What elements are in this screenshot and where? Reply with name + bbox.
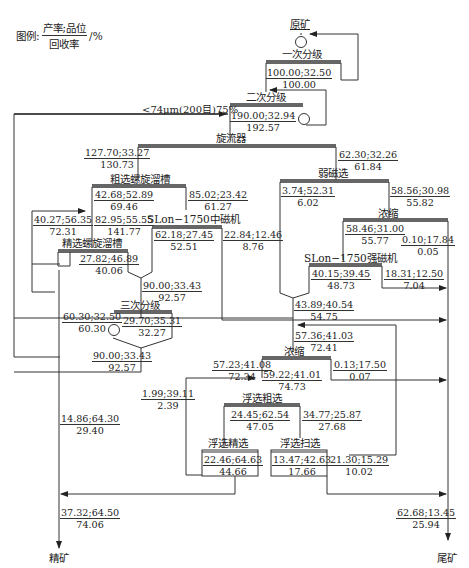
node-concentrate: 精矿 (49, 552, 69, 564)
stream-secondary: 190.00;32.94192.57 (230, 110, 296, 133)
node-thickener-1: 浓缩 (378, 207, 398, 219)
stream-final-conc: 37.32;64.5074.06 (60, 507, 120, 530)
stream-final-tail: 62.68;13.4525.94 (396, 507, 456, 530)
stream-merged-middling: 90.00;33.4392.57 (142, 280, 202, 303)
stream-strong-mag-tail: 18.31;12.507.04 (384, 268, 444, 291)
stream-mag-conc: 43.89;40.5454.75 (294, 299, 354, 322)
node-float-scav: 浮选扫选 (280, 437, 320, 449)
legend-numerator: 产率;品位 (42, 20, 88, 36)
legend-fraction: 产率;品位 回收率 (42, 20, 88, 51)
primary-mill-icon (296, 37, 307, 48)
node-slon-medium: SLon−1750中磁机 (147, 213, 240, 225)
node-raw-ore: 原矿 (290, 18, 310, 30)
stream-tertiary-return: 90.00;33.4392.57 (92, 350, 152, 373)
node-float-clean: 浮选精选 (208, 437, 248, 449)
stream-weak-mag-tail: 58.56;30.9855.82 (390, 185, 450, 208)
node-cyclone: 旋流器 (216, 132, 246, 144)
stream-tertiary-overflow: 29.70;35.3132.27 (122, 315, 182, 338)
grind-note: <74μm(200目)75% (142, 104, 238, 115)
stream-medium-mag-conc: 62.18;27.4552.51 (154, 229, 214, 252)
stream-clean-feed: 82.95;55.55141.77 (94, 214, 154, 237)
node-clean-spiral: 精选螺旋溜槽 (62, 237, 122, 249)
node-tailings: 尾矿 (437, 552, 457, 564)
stream-cyclone-underflow: 127.70;33.27130.73 (84, 147, 150, 170)
stream-float-scav-tail: 21.30;15.2910.02 (329, 454, 389, 477)
node-rough-spiral: 粗选螺旋溜槽 (110, 173, 170, 185)
node-secondary-classify: 二次分级 (246, 91, 286, 103)
stream-medium-mag-tail: 22.84;12.468.76 (223, 229, 283, 252)
legend-denominator: 回收率 (49, 36, 79, 51)
stream-cyclone-overflow: 62.30;32.2661.84 (338, 149, 398, 172)
stream-float-clean-conc: 22.46;64.6344.66 (203, 454, 263, 477)
stream-thickener1-overflow: 0.10;17.840.05 (401, 234, 455, 257)
stream-float-feed: 59.22;41.0174.73 (262, 369, 322, 392)
legend: 图例: 产率;品位 回收率 /% (16, 20, 103, 51)
stream-weak-mag-conc: 3.74;52.316.02 (281, 185, 335, 208)
stream-rough-spiral-conc: 42.68;52.8969.46 (94, 189, 154, 212)
node-primary-classify: 一次分级 (282, 48, 322, 60)
node-slon-strong: SLon−1750强磁机 (304, 252, 397, 264)
stream-float-scav-conc: 13.47;42.6317.66 (272, 454, 332, 477)
secondary-mill-icon (299, 114, 310, 125)
legend-unit: /% (89, 30, 103, 42)
stream-tertiary-underflow: 60.30;32.5060.30 (62, 311, 122, 334)
stream-strong-mag-conc: 40.15;39.4548.73 (311, 268, 371, 291)
stream-thickener2-feed: 57.36;41.0372.41 (294, 330, 354, 353)
stream-thickener2-overflow: 0.13;17.500.07 (333, 359, 387, 382)
stream-thickener1-underflow: 58.46;31.0055.77 (345, 223, 405, 246)
node-float-rough: 浮选粗选 (242, 392, 282, 404)
stream-clean-middling: 27.82;46.8940.06 (79, 253, 139, 276)
stream-float-rough-tail: 34.77;25.8727.68 (302, 409, 362, 432)
stream-gravity-conc: 14.86;64.3029.40 (60, 413, 120, 436)
stream-clean-mid-return: 40.27;56.3572.31 (33, 214, 93, 237)
stream-float-clean-middling: 1.99;39.112.39 (141, 388, 195, 411)
stream-primary: 100.00;32.50100.00 (266, 67, 332, 90)
stream-float-rough-conc: 24.45;62.5447.05 (230, 409, 290, 432)
stream-rough-spiral-tail: 85.02;23.4261.27 (188, 189, 248, 212)
legend-prefix: 图例: (16, 28, 40, 43)
